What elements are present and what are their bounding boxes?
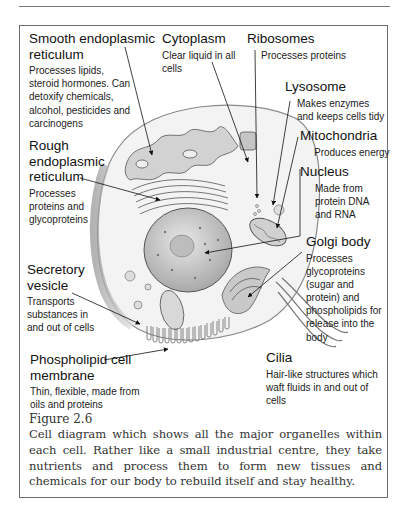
- lysosome-title: Lysosome: [285, 79, 385, 95]
- lysosome-desc: Makes enzymes and keeps cells tidy: [285, 97, 385, 123]
- label-cell-membrane: Phospholipid cell membrane Thin, flexibl…: [30, 352, 155, 411]
- mitochondria-title: Mitochondria: [300, 128, 390, 144]
- vesicle-desc: Transports substances in and out of cell…: [27, 295, 107, 335]
- nucleus-desc: Made from protein DNA and RNA: [300, 182, 386, 222]
- vesicle-title-1: Secretory: [27, 262, 107, 278]
- figure-caption: Figure 2.6 Cell diagram which shows all …: [29, 412, 382, 490]
- nucleus-shape: [144, 208, 232, 292]
- smooth-er-title-2: reticulum: [29, 47, 134, 63]
- figure-caption-text: Cell diagram which shows all the major o…: [29, 427, 382, 490]
- rough-er-title-3: reticulum: [29, 169, 109, 185]
- cilia-desc: Hair-like structures which waft fluids i…: [266, 368, 381, 408]
- cytoplasm-desc: Clear liquid in all cells: [162, 49, 242, 75]
- smooth-er-title-1: Smooth endoplasmic: [29, 31, 134, 47]
- label-smooth-er: Smooth endoplasmic reticulum Processes l…: [29, 31, 134, 130]
- cytoplasm-title: Cytoplasm: [162, 31, 242, 47]
- label-cytoplasm: Cytoplasm Clear liquid in all cells: [162, 31, 242, 75]
- membrane-title-1: Phospholipid cell: [30, 352, 155, 368]
- label-rough-er: Rough endoplasmic reticulum Processes pr…: [29, 138, 109, 226]
- label-ribosomes: Ribosomes Processes proteins: [247, 31, 357, 62]
- golgi-desc: Processes glycoproteins (sugar and prote…: [306, 252, 390, 344]
- ribosomes-desc: Processes proteins: [247, 49, 357, 62]
- membrane-desc: Thin, flexible, made from oils and prote…: [30, 385, 155, 411]
- label-golgi: Golgi body Processes glycoproteins (suga…: [306, 234, 390, 344]
- label-cilia: Cilia Hair-like structures which waft fl…: [266, 350, 381, 407]
- vesicle-title-2: vesicle: [27, 278, 107, 294]
- smooth-er-desc: Processes lipids, steroid hormones. Can …: [29, 64, 134, 130]
- rough-er-desc: Processes proteins and glycoproteins: [29, 187, 109, 227]
- figure-number: Figure 2.6: [29, 412, 382, 426]
- rough-er-title-1: Rough: [29, 138, 109, 154]
- mitochondria-desc: Produces energy: [300, 146, 390, 159]
- label-lysosome: Lysosome Makes enzymes and keeps cells t…: [285, 79, 385, 123]
- label-secretory-vesicle: Secretory vesicle Transports substances …: [27, 262, 107, 335]
- label-mitochondria: Mitochondria Produces energy: [300, 128, 390, 159]
- nucleus-title: Nucleus: [300, 164, 386, 180]
- golgi-title: Golgi body: [306, 234, 390, 250]
- cilia-title: Cilia: [266, 350, 381, 366]
- ribosomes-title: Ribosomes: [247, 31, 357, 47]
- membrane-title-2: membrane: [30, 368, 155, 384]
- label-nucleus: Nucleus Made from protein DNA and RNA: [300, 164, 386, 221]
- rough-er-title-2: endoplasmic: [29, 154, 109, 170]
